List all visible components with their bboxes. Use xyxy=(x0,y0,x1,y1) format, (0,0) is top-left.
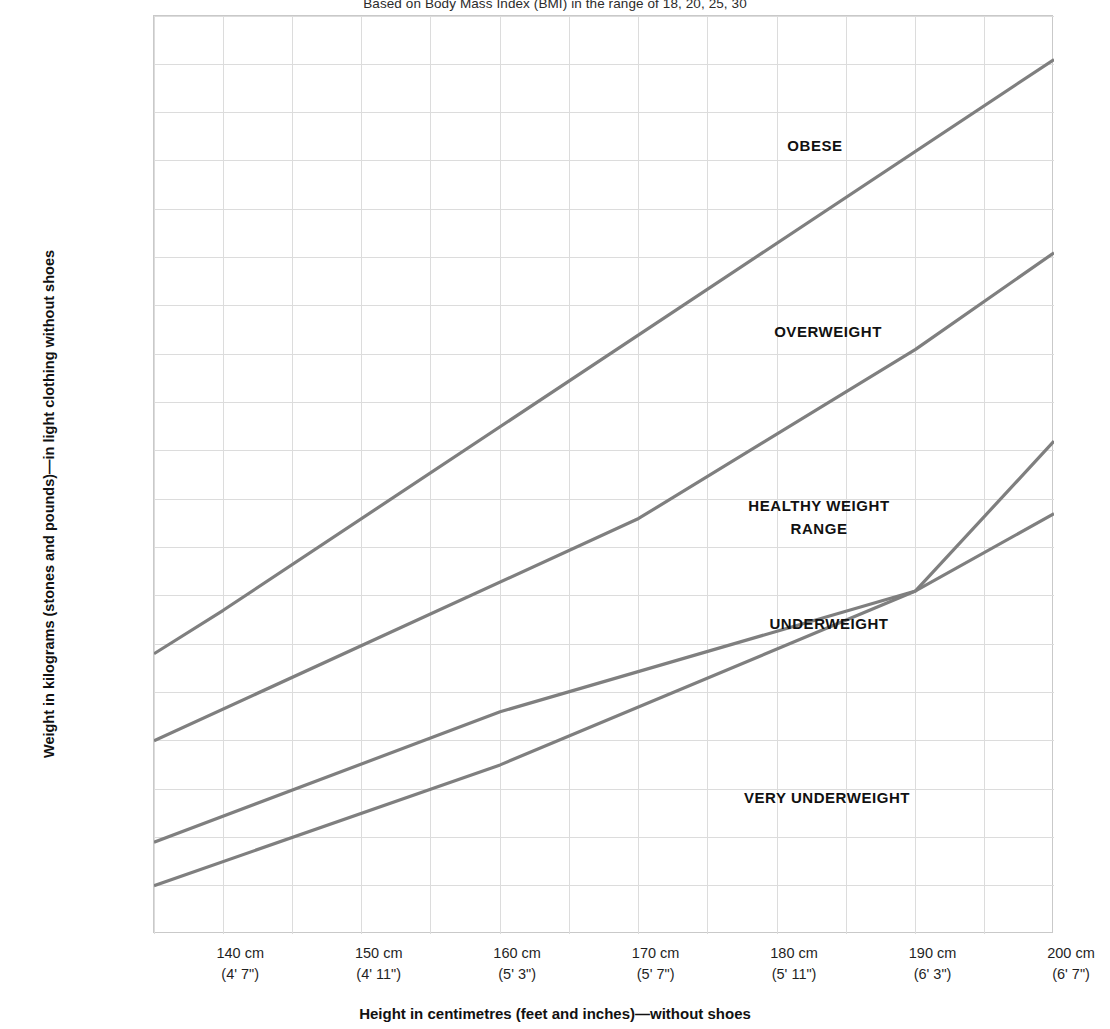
zone-label: OVERWEIGHT xyxy=(774,321,882,344)
x-tick-feet: (5' 7") xyxy=(581,964,731,985)
zone-label: OBESE xyxy=(787,135,842,158)
x-axis-tick: 200 cm(6' 7") xyxy=(996,943,1110,985)
zone-label: VERY UNDERWEIGHT xyxy=(744,787,910,810)
x-tick-feet: (6' 3") xyxy=(858,964,1008,985)
x-axis-tick: 170 cm(5' 7") xyxy=(581,943,731,985)
x-tick-feet: (5' 11") xyxy=(719,964,869,985)
x-tick-cm: 140 cm xyxy=(165,943,315,964)
x-tick-cm: 200 cm xyxy=(996,943,1110,964)
x-axis-title: Height in centimetres (feet and inches)—… xyxy=(0,1005,1110,1022)
x-tick-cm: 180 cm xyxy=(719,943,869,964)
bmi-line xyxy=(154,253,1054,741)
x-tick-cm: 170 cm xyxy=(581,943,731,964)
x-tick-cm: 150 cm xyxy=(304,943,454,964)
x-tick-feet: (5' 3") xyxy=(442,964,592,985)
x-axis-tick: 150 cm(4' 11") xyxy=(304,943,454,985)
x-axis-tick: 190 cm(6' 3") xyxy=(858,943,1008,985)
chart-title: Based on Body Mass Index (BMI) in the ra… xyxy=(0,0,1110,11)
zone-label: HEALTHY WEIGHT RANGE xyxy=(748,495,889,540)
bmi-chart: Based on Body Mass Index (BMI) in the ra… xyxy=(0,0,1110,1029)
bmi-boundary-lines xyxy=(154,16,1054,934)
x-axis-tick: 160 cm(5' 3") xyxy=(442,943,592,985)
bmi-line xyxy=(154,59,1054,653)
x-tick-feet: (4' 7") xyxy=(165,964,315,985)
plot-area xyxy=(153,15,1053,933)
bmi-line xyxy=(154,441,1054,842)
x-tick-feet: (6' 7") xyxy=(996,964,1110,985)
zone-label: UNDERWEIGHT xyxy=(769,613,888,636)
x-tick-cm: 160 cm xyxy=(442,943,592,964)
x-axis-tick: 180 cm(5' 11") xyxy=(719,943,869,985)
bmi-line xyxy=(154,514,1054,886)
x-tick-feet: (4' 11") xyxy=(304,964,454,985)
x-tick-cm: 190 cm xyxy=(858,943,1008,964)
y-axis-title: Weight in kilograms (stones and pounds)—… xyxy=(41,124,57,884)
x-axis-tick: 140 cm(4' 7") xyxy=(165,943,315,985)
